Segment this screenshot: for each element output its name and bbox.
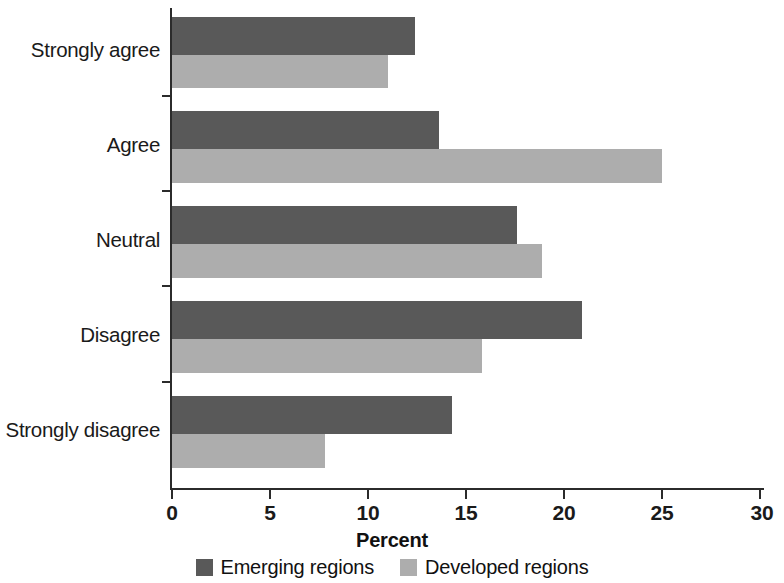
plot-area (172, 10, 764, 488)
x-axis-tick-30 (759, 490, 761, 499)
x-axis-tick-20 (563, 490, 565, 499)
legend-item-emerging-regions: Emerging regions (196, 556, 375, 579)
x-axis-tick-10 (367, 490, 369, 499)
y-axis-tick (162, 95, 172, 97)
legend: Emerging regions Developed regions (0, 556, 784, 579)
bar-chart: Strongly agree Agree Neutral Disagree St… (0, 0, 784, 583)
legend-label-developed-regions: Developed regions (425, 556, 588, 579)
y-axis-label-strongly-disagree: Strongly disagree (0, 418, 160, 442)
x-axis-tick-5 (269, 490, 271, 499)
bar-developed-agree (172, 149, 662, 183)
x-axis-tick-label-0: 0 (166, 501, 177, 525)
y-axis-tick (162, 190, 172, 192)
legend-swatch-icon (196, 559, 213, 576)
y-axis-label-disagree: Disagree (0, 323, 160, 347)
x-axis-tick-25 (661, 490, 663, 499)
y-axis-label-strongly-agree: Strongly agree (0, 38, 160, 62)
x-axis-tick-label-15: 15 (455, 501, 478, 525)
x-axis-tick-label-5: 5 (264, 501, 275, 525)
bar-emerging-disagree (172, 301, 582, 339)
x-axis-tick-15 (465, 490, 467, 499)
bar-emerging-neutral (172, 206, 517, 244)
bar-developed-strongly-disagree (172, 434, 325, 468)
bar-emerging-strongly-disagree (172, 396, 452, 434)
y-axis-label-neutral: Neutral (0, 228, 160, 252)
bar-developed-disagree (172, 339, 482, 373)
legend-label-emerging-regions: Emerging regions (221, 556, 375, 579)
x-axis-tick-label-10: 10 (357, 501, 380, 525)
x-axis-line (170, 488, 764, 490)
legend-item-developed-regions: Developed regions (400, 556, 588, 579)
legend-swatch-icon (400, 559, 417, 576)
x-axis-tick-label-30: 30 (751, 501, 774, 525)
bar-emerging-strongly-agree (172, 17, 415, 55)
x-axis-title: Percent (0, 529, 784, 552)
y-axis-label-agree: Agree (0, 133, 160, 157)
x-axis-tick-label-25: 25 (651, 501, 674, 525)
y-axis-tick (162, 285, 172, 287)
bar-developed-neutral (172, 244, 542, 278)
x-axis-tick-label-20: 20 (553, 501, 576, 525)
y-axis-tick (162, 381, 172, 383)
bar-emerging-agree (172, 111, 439, 149)
bar-developed-strongly-agree (172, 55, 388, 88)
x-axis-tick-0 (171, 490, 173, 499)
